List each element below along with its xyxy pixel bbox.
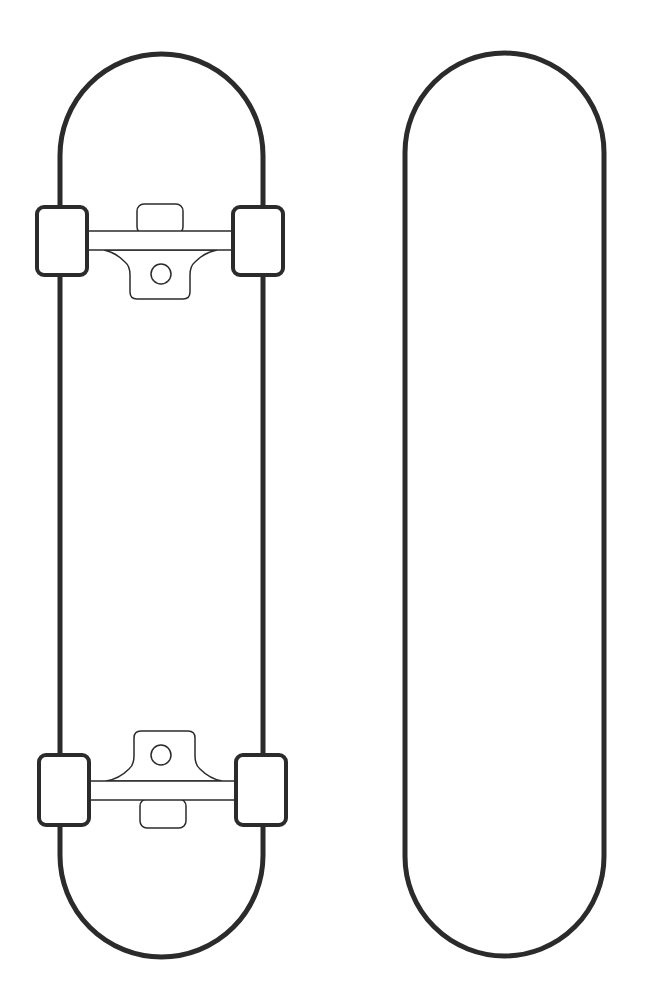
truck-axle <box>88 231 234 250</box>
truck-bolt-hole <box>151 264 171 284</box>
truck-axle <box>90 781 238 800</box>
wheel-front-left <box>37 207 87 275</box>
skateboard-diagram <box>0 0 647 1007</box>
truck-bolt-hole <box>151 745 171 765</box>
truck-kingpin-tab <box>140 799 186 828</box>
truck-kingpin-tab <box>137 204 183 234</box>
wheel-front-right <box>233 207 283 275</box>
deck-outline <box>405 53 604 956</box>
skateboard-top-view <box>405 53 604 956</box>
wheel-rear-left <box>39 755 89 825</box>
skateboard-bottom-view <box>37 54 286 957</box>
wheel-rear-right <box>236 755 286 825</box>
